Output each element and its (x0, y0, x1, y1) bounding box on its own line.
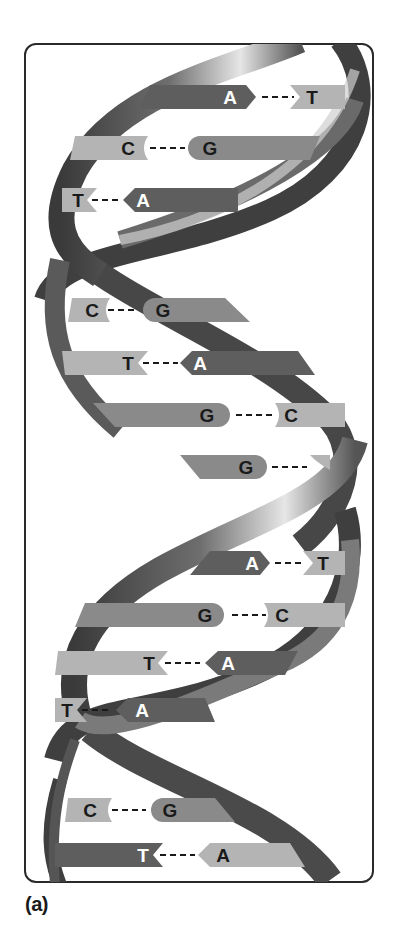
svg-text:T: T (317, 553, 329, 574)
svg-text:A: A (245, 553, 259, 574)
base-A (140, 85, 256, 109)
svg-text:G: G (163, 800, 178, 821)
base-pair-4: C G (68, 298, 250, 322)
base-pair-6: G C (93, 403, 345, 427)
dna-figure: A T C G T A C G (0, 0, 399, 931)
base-pair-5: T A (62, 351, 315, 375)
base-T (62, 351, 148, 375)
svg-text:T: T (72, 190, 84, 211)
svg-text:C: C (121, 138, 135, 159)
svg-text:G: G (203, 138, 218, 159)
svg-text:C: C (275, 605, 289, 626)
svg-text:G: G (239, 457, 254, 478)
base-A (198, 843, 305, 867)
base-A (205, 651, 298, 675)
svg-text:A: A (135, 700, 149, 721)
base-pair-1: A T (140, 85, 345, 109)
base-pair-9: G C (75, 603, 345, 627)
svg-text:T: T (137, 845, 149, 866)
svg-text:G: G (198, 605, 213, 626)
svg-text:G: G (156, 300, 171, 321)
base-A (116, 698, 215, 722)
svg-text:T: T (143, 653, 155, 674)
svg-text:A: A (223, 87, 237, 108)
svg-text:T: T (122, 353, 134, 374)
figure-caption: (a) (25, 893, 48, 916)
base-C (70, 136, 148, 160)
svg-text:A: A (221, 653, 235, 674)
svg-text:A: A (136, 190, 150, 211)
svg-text:C: C (284, 405, 298, 426)
svg-text:G: G (200, 405, 215, 426)
dna-double-helix-diagram: A T C G T A C G (0, 0, 399, 931)
svg-text:C: C (85, 300, 99, 321)
svg-text:C: C (83, 800, 97, 821)
svg-text:T: T (61, 700, 73, 721)
svg-text:A: A (193, 353, 207, 374)
svg-text:A: A (216, 845, 230, 866)
svg-text:T: T (306, 87, 318, 108)
base-pair-2: C G (70, 136, 320, 160)
